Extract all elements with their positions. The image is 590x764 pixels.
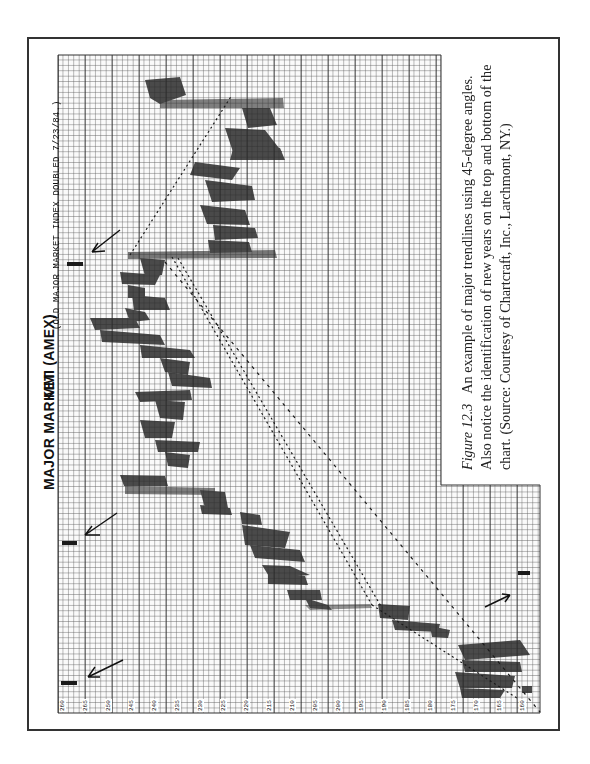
figure-caption: Figure 12.3 An example of major trendlin… (458, 50, 515, 470)
tick-label: 215 (266, 699, 273, 712)
tick-label: 245 (128, 699, 135, 712)
tick-label: 175 (450, 699, 457, 712)
tick-label: 180 (427, 699, 434, 712)
tick-label: 220 (243, 699, 250, 712)
tick-label: 190 (381, 699, 388, 712)
tick-label: 210 (289, 699, 296, 712)
tick-label: 230 (197, 699, 204, 712)
tick-label: 195 (358, 699, 365, 712)
tick-label: 250 (105, 699, 112, 712)
tick-label: 170 (473, 699, 480, 712)
index-doubled-note: (OLD MAJOR MARKET INDEX DOUBLED 7/23/84.… (52, 100, 62, 330)
tick-label: 165 (496, 699, 503, 712)
tick-label: 235 (174, 699, 181, 712)
tick-label: 240 (151, 699, 158, 712)
tick-label: 225 (220, 699, 227, 712)
tick-label: 205 (312, 699, 319, 712)
tick-label: 185 (404, 699, 411, 712)
tick-label: 160 (519, 699, 526, 712)
tick-label: 260 (59, 699, 66, 712)
tick-label: 200 (335, 699, 342, 712)
tick-label: 265 (82, 699, 89, 712)
figure-label: Figure 12.3 (459, 404, 475, 470)
